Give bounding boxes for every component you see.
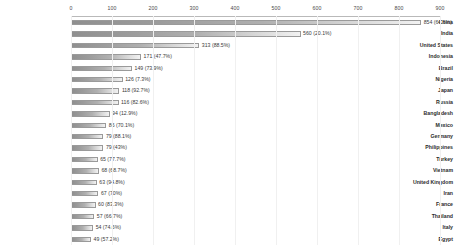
bar-group: 79 (43%): [71, 145, 127, 150]
bar: [71, 168, 99, 173]
bar: [71, 180, 97, 185]
bar: [71, 54, 141, 59]
bar-group: 60 (83.3%): [71, 202, 123, 207]
x-axis-tick-label: 0: [70, 5, 73, 11]
bar-value-label: 54 (74.6%): [93, 225, 121, 230]
bar: [71, 237, 91, 242]
bar-value-label: 57 (66.7%): [94, 214, 122, 219]
x-axis-tick-label: 600: [313, 5, 322, 11]
bar-group: 560 (20.1%): [71, 31, 331, 36]
category-label: Japan: [386, 88, 456, 93]
bar: [71, 31, 301, 36]
category-label: Vietnam: [386, 168, 456, 173]
x-axis: 0100200300400500600700800900: [0, 0, 456, 18]
bar-value-label: 313 (88.5%): [199, 43, 230, 48]
bar-group: 63 (94.8%): [71, 180, 125, 185]
bar: [71, 225, 93, 230]
bar-chart: 0100200300400500600700800900 China854 (6…: [0, 0, 456, 249]
bar-row: Nigeria126 (7.3%): [0, 74, 456, 85]
bar: [71, 202, 96, 207]
bar-value-label: 60 (83.3%): [96, 202, 124, 207]
category-label: Indonesia: [386, 54, 456, 59]
bar-group: 149 (73.9%): [71, 66, 163, 71]
bar-row: Japan118 (92.7%): [0, 85, 456, 96]
bar-row: India560 (20.1%): [0, 28, 456, 39]
bar-group: 86 (70.1%): [71, 123, 134, 128]
bar-value-label: 116 (82.6%): [119, 100, 149, 105]
category-label: Russia: [386, 100, 456, 105]
grid-line: [399, 16, 400, 245]
bar: [71, 77, 123, 82]
bar-value-label: 86 (70.1%): [106, 123, 134, 128]
category-label: Brazil: [386, 66, 456, 71]
bar-value-label: 126 (7.3%): [123, 77, 151, 82]
grid-line: [317, 16, 318, 245]
bar-row: Brazil149 (73.9%): [0, 63, 456, 74]
category-label: India: [386, 31, 456, 36]
bar-row: Indonesia171 (47.7%): [0, 51, 456, 62]
bar: [71, 191, 98, 196]
bar-row: Russia116 (82.6%): [0, 97, 456, 108]
bar-value-label: 149 (73.9%): [132, 66, 163, 71]
bar-group: 54 (74.6%): [71, 225, 121, 230]
bar-group: 171 (47.7%): [71, 54, 172, 59]
bar-row: France60 (83.3%): [0, 199, 456, 210]
category-label: Thailand: [386, 214, 456, 219]
bar-group: 116 (82.6%): [71, 100, 149, 105]
x-axis-tick-label: 200: [149, 5, 158, 11]
bar-row: Mexico86 (70.1%): [0, 120, 456, 131]
category-label: France: [386, 202, 456, 207]
category-label: Turkey: [386, 157, 456, 162]
bar-value-label: 854 (64.6%): [421, 20, 452, 25]
category-label: Egypt: [386, 237, 456, 242]
bar-row: Bangladesh94 (12.9%): [0, 108, 456, 119]
bar-group: 94 (12.9%): [71, 111, 137, 116]
bar-row: Philippines79 (43%): [0, 142, 456, 153]
bar-value-label: 67 (70%): [98, 191, 122, 196]
bar-group: 313 (88.5%): [71, 43, 230, 48]
bar-group: 65 (77.7%): [71, 157, 126, 162]
bar-group: 57 (66.7%): [71, 214, 122, 219]
x-axis-tick-label: 400: [231, 5, 240, 11]
bar-value-label: 118 (92.7%): [119, 88, 149, 93]
bar-value-label: 79 (43%): [103, 145, 127, 150]
category-label: United Kingdom: [386, 180, 456, 185]
category-label: Germany: [386, 134, 456, 139]
category-label: United States: [386, 43, 456, 48]
grid-line: [71, 16, 72, 245]
bar-row: United States313 (88.5%): [0, 40, 456, 51]
x-axis-tick-label: 700: [354, 5, 363, 11]
bar-group: 118 (92.7%): [71, 88, 150, 93]
x-axis-tick-label: 900: [436, 5, 445, 11]
bar-row: China854 (64.6%): [0, 17, 456, 28]
bar-row: Iran67 (70%): [0, 188, 456, 199]
bar-group: 854 (64.6%): [71, 20, 452, 25]
grid-line: [194, 16, 195, 245]
bar: [71, 134, 103, 139]
bar: [71, 123, 106, 128]
bar-row: Italy54 (74.6%): [0, 222, 456, 233]
bar-row: Germany79 (88.1%): [0, 131, 456, 142]
category-label: Nigeria: [386, 77, 456, 82]
bar-group: 67 (70%): [71, 191, 122, 196]
bar-row: Egypt49 (57.2%): [0, 234, 456, 245]
category-label: Bangladesh: [386, 111, 456, 116]
category-label: Iran: [386, 191, 456, 196]
bar: [71, 43, 199, 48]
bar-group: 126 (7.3%): [71, 77, 151, 82]
bar-value-label: 560 (20.1%): [301, 31, 332, 36]
x-axis-tick-label: 500: [272, 5, 281, 11]
bar: [71, 111, 110, 116]
plot-area: China854 (64.6%)India560 (20.1%)United S…: [0, 17, 456, 245]
bar-value-label: 79 (88.1%): [103, 134, 131, 139]
bar-row: Vietnam68 (68.7%): [0, 165, 456, 176]
bar-row: Turkey65 (77.7%): [0, 154, 456, 165]
grid-line: [358, 16, 359, 245]
category-label: Italy: [386, 225, 456, 230]
bar-row: United Kingdom63 (94.8%): [0, 177, 456, 188]
bar: [71, 214, 94, 219]
bar-value-label: 49 (57.2%): [91, 237, 119, 242]
bar-value-label: 171 (47.7%): [141, 54, 172, 59]
grid-line: [440, 16, 441, 245]
grid-line: [153, 16, 154, 245]
